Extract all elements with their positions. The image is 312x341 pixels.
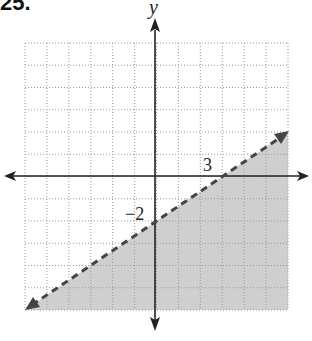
- y-axis-label: y: [147, 0, 158, 19]
- y-intercept-label: −2: [125, 204, 144, 224]
- x-intercept-label: 3: [203, 155, 212, 175]
- inequality-graph: y 3 −2: [0, 0, 312, 341]
- y-axis-up-arrow-icon: [150, 18, 160, 32]
